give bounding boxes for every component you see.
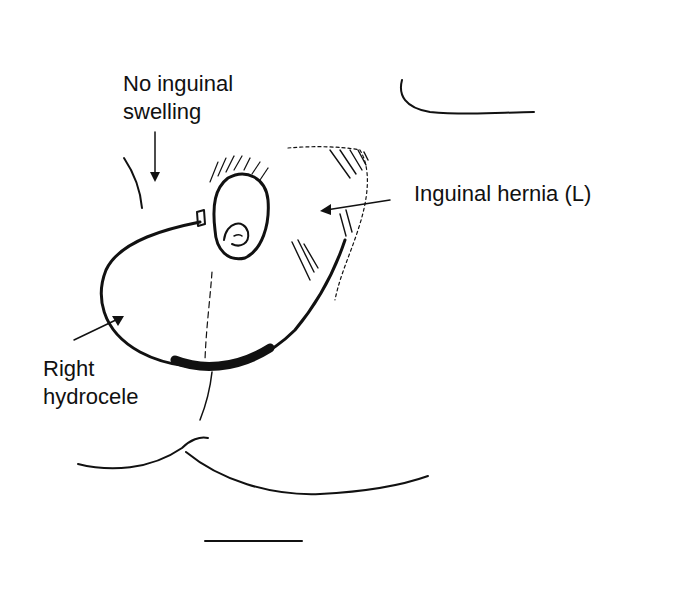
arrow-hernia — [326, 200, 390, 210]
label-right-hydrocele-line2: hydrocele — [43, 383, 138, 411]
arrowhead-hernia — [320, 204, 331, 215]
label-right-hydrocele: Right hydrocele — [43, 355, 138, 411]
label-inguinal-hernia: Inguinal hernia (L) — [414, 180, 591, 208]
scrotal-base-shading — [175, 348, 270, 366]
thigh-contour-right — [186, 452, 428, 494]
anatomical-drawing — [0, 0, 674, 599]
label-no-inguinal-line2: swelling — [123, 98, 233, 126]
hydrocele-outline — [101, 222, 345, 367]
arrowhead-no-swelling — [150, 172, 160, 182]
abdominal-contour — [401, 80, 534, 114]
label-no-inguinal-line1: No inguinal — [123, 70, 233, 98]
label-right-hydrocele-line1: Right — [43, 355, 138, 383]
label-no-inguinal-swelling: No inguinal swelling — [123, 70, 233, 126]
right-groin-contour — [124, 158, 142, 208]
hernia-outline — [288, 147, 367, 300]
perineum-line — [200, 372, 212, 420]
scrotal-raphe — [205, 272, 212, 360]
